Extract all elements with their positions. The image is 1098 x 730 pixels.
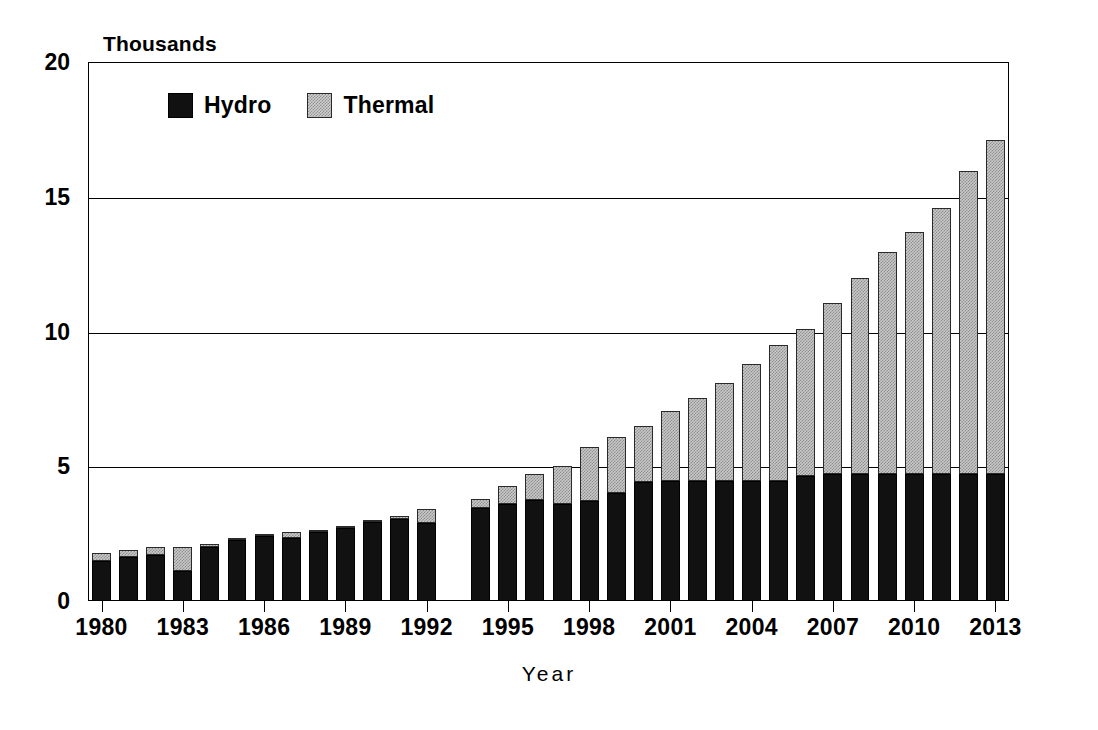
x-axis-title: Year xyxy=(0,662,1098,686)
x-axis-tick-label: 2013 xyxy=(940,614,1050,641)
x-axis-tick-2007 xyxy=(833,601,834,612)
chart-legend: Hydro Thermal xyxy=(168,92,434,119)
y-axis-tick-label: 10 xyxy=(8,318,70,345)
legend-swatch-hydro-icon xyxy=(168,93,193,118)
x-axis-tick-1986 xyxy=(264,601,265,612)
legend-item-hydro: Hydro xyxy=(168,92,271,119)
y-axis-tick-label: 5 xyxy=(8,453,70,480)
x-axis-tick-1980 xyxy=(102,601,103,612)
legend-swatch-thermal-icon xyxy=(307,93,332,118)
x-axis-tick-2010 xyxy=(914,601,915,612)
x-axis-tick-2004 xyxy=(752,601,753,612)
x-axis-tick-2001 xyxy=(670,601,671,612)
legend-label-thermal: Thermal xyxy=(343,92,434,119)
x-axis-tick-1989 xyxy=(345,601,346,612)
y-axis-tick-label: 15 xyxy=(8,183,70,210)
x-axis-tick-1992 xyxy=(427,601,428,612)
y-axis-tick-label: 0 xyxy=(8,588,70,615)
x-axis-tick-1998 xyxy=(589,601,590,612)
legend-label-hydro: Hydro xyxy=(204,92,271,119)
chart-container: Thousands 05101520 198019831986198919921… xyxy=(0,0,1098,730)
legend-item-thermal: Thermal xyxy=(307,92,434,119)
x-axis-tick-2013 xyxy=(995,601,996,612)
x-axis-tick-1983 xyxy=(183,601,184,612)
x-axis-tick-1995 xyxy=(508,601,509,612)
y-axis-tick-label: 20 xyxy=(8,49,70,76)
